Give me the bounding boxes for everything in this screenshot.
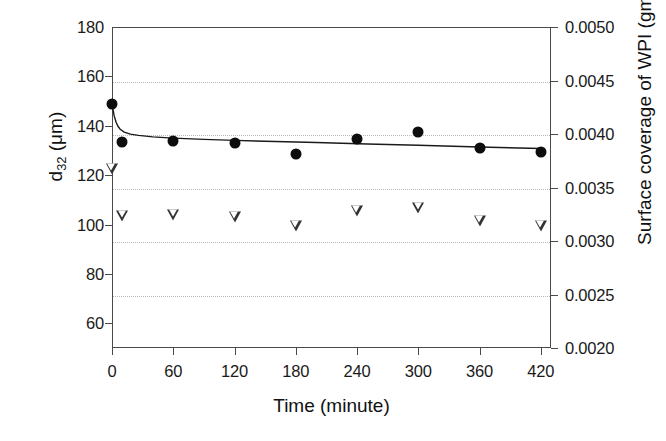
y-axis-left-title-units: (μm) — [45, 112, 66, 157]
y-axis-left-tick — [105, 323, 112, 324]
gridline — [113, 296, 550, 297]
x-axis-tick-label: 180 — [266, 362, 326, 381]
gridline — [113, 189, 550, 190]
y-axis-left-title-main: d — [45, 171, 66, 182]
gridline — [113, 242, 550, 243]
gridline — [113, 82, 550, 83]
x-axis-tick-label: 60 — [143, 362, 203, 381]
data-point-circle — [117, 136, 128, 147]
data-point-circle — [168, 135, 179, 146]
x-axis-tick-label: 420 — [511, 362, 571, 381]
y-axis-left-tick-label: 80 — [44, 264, 104, 283]
y-axis-left-title: d32 (μm) — [45, 72, 68, 222]
y-axis-right-tick-label: 0.0020 — [565, 339, 655, 358]
data-point-triangle — [229, 212, 241, 223]
data-point-circle — [229, 138, 240, 149]
y-axis-right-tick — [551, 81, 558, 82]
x-axis-tick — [235, 348, 236, 355]
data-point-triangle — [412, 202, 424, 213]
y-axis-left-title-subscript: 32 — [54, 157, 69, 171]
gridline — [113, 135, 550, 136]
y-axis-right-tick — [551, 241, 558, 242]
data-point-triangle — [474, 215, 486, 226]
data-point-triangle — [106, 164, 118, 175]
x-axis-tick — [173, 348, 174, 355]
y-axis-right-tick-label: 0.0025 — [565, 285, 655, 304]
y-axis-left-tick-label: 60 — [44, 314, 104, 333]
x-axis-tick-label: 360 — [450, 362, 510, 381]
y-axis-left-tick — [105, 225, 112, 226]
data-point-triangle — [116, 211, 128, 222]
data-point-circle — [290, 149, 301, 160]
x-axis-tick — [480, 348, 481, 355]
y-axis-right-tick — [551, 188, 558, 189]
data-point-triangle — [351, 205, 363, 216]
x-axis-tick-label: 240 — [327, 362, 387, 381]
y-axis-right-tick — [551, 27, 558, 28]
x-axis-tick — [357, 348, 358, 355]
data-point-triangle — [535, 220, 547, 231]
data-point-triangle — [290, 220, 302, 231]
y-axis-right-title: Surface coverage of WPI (gm-2) — [634, 0, 657, 261]
y-axis-left-tick — [105, 274, 112, 275]
y-axis-left-tick-label: 180 — [44, 18, 104, 37]
x-axis-tick — [296, 348, 297, 355]
data-point-circle — [107, 98, 118, 109]
y-axis-left-tick — [105, 175, 112, 176]
x-axis-tick — [418, 348, 419, 355]
x-axis-tick-label: 120 — [205, 362, 265, 381]
y-axis-left-tick — [105, 76, 112, 77]
chart-figure: 18016014012010080600.00500.00450.00400.0… — [0, 0, 666, 441]
data-point-circle — [413, 126, 424, 137]
y-axis-left-tick — [105, 126, 112, 127]
data-point-circle — [352, 134, 363, 145]
data-point-circle — [535, 146, 546, 157]
x-axis-title: Time (minute) — [112, 395, 551, 417]
y-axis-right-tick — [551, 348, 558, 349]
x-axis-tick-label: 300 — [388, 362, 448, 381]
data-point-circle — [474, 142, 485, 153]
y-axis-right-title-main: Surface coverage of WPI (gm — [634, 0, 655, 245]
plot-area — [112, 27, 551, 348]
x-axis-tick — [541, 348, 542, 355]
x-axis-tick-label: 0 — [82, 362, 142, 381]
y-axis-right-tick — [551, 295, 558, 296]
data-point-triangle — [167, 210, 179, 221]
x-axis-tick — [112, 348, 113, 355]
y-axis-right-tick — [551, 134, 558, 135]
